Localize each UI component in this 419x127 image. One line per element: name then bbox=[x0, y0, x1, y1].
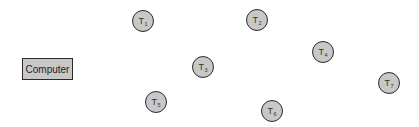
terminal-subscript: 1 bbox=[144, 21, 147, 27]
terminal-label: T bbox=[151, 98, 157, 107]
terminal-subscript: 6 bbox=[273, 111, 276, 117]
terminal-t7: T7 bbox=[378, 72, 400, 94]
terminal-subscript: 7 bbox=[390, 83, 393, 89]
terminal-t6: T6 bbox=[261, 100, 283, 122]
computer-node: Computer bbox=[22, 58, 73, 80]
terminal-label: T bbox=[384, 79, 390, 88]
terminal-subscript: 3 bbox=[204, 67, 207, 73]
terminal-t2: T2 bbox=[246, 9, 268, 31]
terminal-t4: T4 bbox=[312, 41, 334, 63]
terminal-subscript: 4 bbox=[324, 52, 327, 58]
computer-label: Computer bbox=[26, 64, 70, 75]
terminal-subscript: 2 bbox=[258, 20, 261, 26]
terminal-t5: T5 bbox=[145, 91, 167, 113]
terminal-label: T bbox=[267, 107, 273, 116]
terminal-label: T bbox=[252, 16, 258, 25]
terminal-subscript: 5 bbox=[157, 102, 160, 108]
terminal-t3: T3 bbox=[192, 56, 214, 78]
terminal-label: T bbox=[198, 63, 204, 72]
terminal-label: T bbox=[318, 48, 324, 57]
terminal-label: T bbox=[138, 17, 144, 26]
terminal-t1: T1 bbox=[132, 10, 154, 32]
